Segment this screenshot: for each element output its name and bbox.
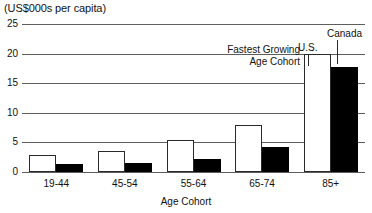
x-axis-title: Age Cohort (0, 196, 372, 207)
leader-line-us (308, 54, 309, 66)
x-axis-tick-label: 85+ (322, 178, 339, 189)
y-axis-tick-label: 10 (7, 108, 18, 118)
bar-canada-85+ (331, 67, 358, 172)
annotation-fastest-growing-line1: Fastest Growing (227, 44, 300, 56)
chart-title: (US$000s per capita) (4, 2, 106, 14)
y-axis-tick-labels: 0510152025 (0, 24, 18, 172)
x-axis-tick-label: 45-54 (112, 178, 138, 189)
leader-line-canada (337, 40, 338, 64)
x-axis-tick-label: 55-64 (181, 178, 207, 189)
annotation-fastest-growing-line2: Age Cohort (227, 56, 300, 68)
y-axis-tick-label: 15 (7, 78, 18, 88)
annotation-canada-label: Canada (327, 28, 362, 39)
bar-us-85+ (304, 54, 331, 172)
y-axis-tick-label: 5 (12, 137, 18, 147)
bar-chart: (US$000s per capita) 0510152025 19-4445-… (0, 0, 372, 213)
x-axis-tick-label: 19-44 (44, 178, 70, 189)
x-axis-line (22, 172, 365, 173)
y-axis-tick-label: 20 (7, 49, 18, 59)
y-axis-tick-label: 0 (12, 167, 18, 177)
x-axis-tick-label: 65-74 (249, 178, 275, 189)
y-axis-tick-label: 25 (7, 19, 18, 29)
annotation-us-label: U.S. (298, 42, 317, 53)
annotation-fastest-growing: Fastest Growing Age Cohort (227, 44, 300, 68)
